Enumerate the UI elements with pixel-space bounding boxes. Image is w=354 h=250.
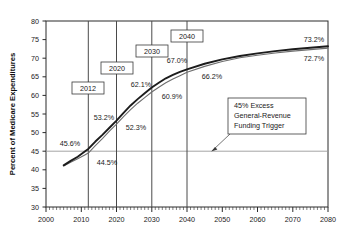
year-box-2012-label: 2012 [80, 84, 96, 93]
value-label-2080-low: 72.7% [304, 54, 325, 63]
callout-line-2: General-Revenue [234, 111, 291, 120]
y-tick-65: 65 [31, 72, 39, 81]
x-tick-2060: 2060 [250, 215, 266, 224]
year-box-2020-label: 2020 [109, 64, 125, 73]
x-tick-2010: 2010 [73, 215, 89, 224]
chart-svg: 80 75 70 65 60 55 50 45 40 35 30 Percent… [0, 0, 354, 250]
medicare-expenditures-chart: 80 75 70 65 60 55 50 45 40 35 30 Percent… [0, 0, 354, 250]
value-label-2040-high: 67.0% [167, 56, 188, 65]
x-tick-2070: 2070 [285, 215, 301, 224]
callout-line-3: Funding Trigger [234, 121, 285, 130]
y-tick-80: 80 [31, 17, 39, 26]
year-marker-2030: 2030 [136, 45, 168, 57]
y-tick-50: 50 [31, 128, 39, 137]
value-label-2040-low: 66.2% [202, 72, 223, 81]
value-label-2012-high: 45.6% [60, 139, 81, 148]
y-axis-title: Percent of Medicare Expenditures [8, 53, 17, 175]
year-box-2030-label: 2030 [144, 47, 160, 56]
y-tick-75: 75 [31, 35, 39, 44]
x-tick-2080: 2080 [320, 215, 336, 224]
y-tick-60: 60 [31, 91, 39, 100]
x-tick-2040: 2040 [179, 215, 195, 224]
x-tick-2030: 2030 [144, 215, 160, 224]
y-tick-40: 40 [31, 165, 39, 174]
value-label-2080-high: 73.2% [304, 35, 325, 44]
value-label-2020-low: 52.3% [126, 123, 147, 132]
y-tick-55: 55 [31, 110, 39, 119]
callout-line-1: 45% Excess [234, 101, 274, 110]
value-label-2030-high: 62.1% [131, 80, 152, 89]
y-tick-35: 35 [31, 184, 39, 193]
x-tick-labels: 2000 2010 2020 2030 2040 2050 2060 2070 … [38, 215, 336, 224]
year-box-2040-label: 2040 [179, 32, 195, 41]
y-tick-45: 45 [31, 147, 39, 156]
x-tick-2000: 2000 [38, 215, 54, 224]
x-tick-2020: 2020 [109, 215, 125, 224]
y-tick-30: 30 [31, 203, 39, 212]
y-tick-70: 70 [31, 54, 39, 63]
x-tick-2050: 2050 [214, 215, 230, 224]
value-label-2012-low: 44.5% [97, 158, 118, 167]
value-label-2020-high: 53.2% [94, 113, 115, 122]
year-marker-2012: 2012 [72, 82, 104, 94]
year-marker-2040: 2040 [171, 30, 203, 42]
year-marker-2020: 2020 [101, 62, 133, 74]
value-label-2030-low: 60.9% [162, 92, 183, 101]
